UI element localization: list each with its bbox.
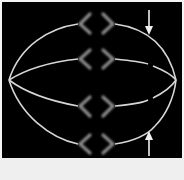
arrow-up-icon — [145, 131, 153, 156]
chromosome-pair-4 — [80, 135, 113, 153]
chromosome-pair-2 — [80, 50, 113, 68]
fiber-inner-top — [9, 59, 78, 80]
fiber-outer-bottom-right2 — [155, 80, 176, 126]
chromosome-pair-3 — [80, 97, 113, 116]
arrow-down-icon — [145, 10, 153, 35]
fiber-outer-top — [9, 24, 78, 80]
spindle-diagram — [0, 0, 184, 180]
chromosome-pair-1 — [80, 14, 113, 33]
chromosomes — [80, 14, 113, 153]
fiber-outer-bottom — [9, 80, 78, 144]
fiber-outer-top-right — [115, 24, 176, 80]
fiber-inner-top-right — [115, 59, 148, 64]
fiber-inner-bottom-right — [115, 100, 148, 106]
spindle-fibers — [9, 24, 176, 144]
